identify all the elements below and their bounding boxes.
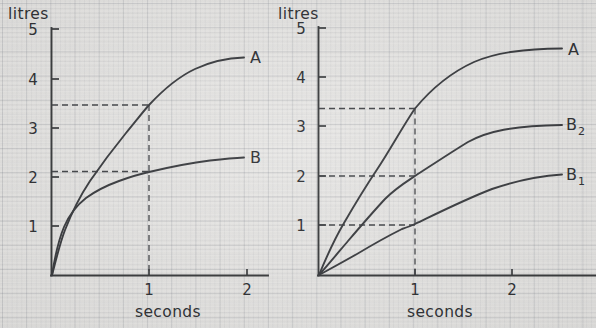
left-curve-label-A: A [250,48,261,67]
right-curve-A [319,49,562,276]
right-curve-B2 [319,125,562,275]
left-curve-A [52,58,244,276]
left-y-ticklabel-4: 4 [28,71,38,89]
left-x-ticklabel-1: 1 [144,281,154,299]
figure-two-panel-volume-time: litres 5 4 3 2 1 1 2 seconds A B lit [0,0,596,328]
left-curve-label-B: B [250,148,261,167]
right-x-axis-label: seconds [407,303,473,321]
right-curve-B1 [319,175,562,276]
left-x-axis-label: seconds [135,303,201,321]
panel-left: litres 5 4 3 2 1 1 2 seconds A B [8,5,268,321]
left-y-ticklabel-5: 5 [28,21,38,39]
left-y-ticklabel-1: 1 [28,218,38,236]
right-y-ticklabel-5: 5 [296,20,306,38]
left-y-ticklabel-2: 2 [28,169,38,187]
panel-right: litres 5 4 3 2 1 1 2 seconds A B2 B1 [278,5,596,321]
right-curve-label-B1: B1 [566,165,585,188]
right-x-ticklabel-2: 2 [507,281,517,299]
left-x-ticklabel-2: 2 [242,281,252,299]
right-y-ticklabel-3: 3 [296,118,306,136]
left-curve-B [52,158,244,276]
right-y-ticklabel-4: 4 [296,69,306,87]
right-y-ticklabel-2: 2 [296,168,306,186]
left-y-ticklabel-3: 3 [28,120,38,138]
right-curve-label-B2: B2 [566,115,585,138]
right-x-ticklabel-1: 1 [410,281,420,299]
right-y-ticklabel-1: 1 [296,217,306,235]
right-curve-label-A: A [568,40,579,59]
